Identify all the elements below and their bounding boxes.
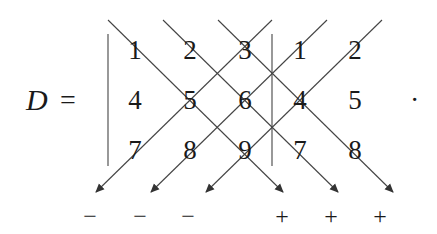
appended-cell: 1 (285, 35, 315, 65)
plus-sign: + (319, 204, 343, 228)
minus-sign: − (176, 204, 200, 228)
appended-cell: 7 (285, 135, 315, 165)
minus-sign: − (78, 204, 102, 228)
plus-sign: + (368, 204, 392, 228)
matrix-cell: 9 (230, 135, 260, 165)
terminator-dot: · (410, 84, 419, 116)
matrix-cell: 8 (175, 135, 205, 165)
appended-cell: 8 (340, 135, 370, 165)
matrix-cell: 7 (120, 135, 150, 165)
appended-cell: 4 (285, 85, 315, 115)
matrix-cell: 3 (230, 35, 260, 65)
matrix-cell: 5 (175, 85, 205, 115)
determinant-label: D (26, 83, 48, 117)
matrix-cell: 6 (230, 85, 260, 115)
appended-cell: 5 (340, 85, 370, 115)
matrix-cell: 4 (120, 85, 150, 115)
appended-cell: 2 (340, 35, 370, 65)
minus-sign: − (128, 204, 152, 228)
matrix-cell: 1 (120, 35, 150, 65)
plus-sign: + (270, 204, 294, 228)
matrix-cell: 2 (175, 35, 205, 65)
sarrus-lines (0, 0, 437, 234)
equals-sign: = (60, 84, 76, 116)
